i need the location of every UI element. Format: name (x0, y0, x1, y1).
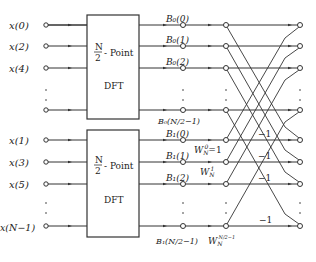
ellipsis-dot (45, 212, 47, 214)
output-label: B₀(2) (165, 57, 189, 67)
outputs-bottom: B₁(0) B₁(1) B₁(2) B₁(N/2−1) (155, 129, 198, 246)
minus-one-label: −1 (258, 151, 271, 161)
block-sublabel: DFT (104, 195, 123, 205)
frac-denominator: 2 (95, 166, 101, 176)
input-label: x(0) (9, 20, 29, 31)
output-label: B₁(2) (165, 173, 189, 183)
output-label: B₀(N/2−1) (157, 117, 200, 126)
minus-one-label: −1 (258, 173, 271, 183)
outputs-top: B₀(0) B₀(1) B₀(2) B₀(N/2−1) (157, 14, 200, 126)
input-lines-bottom (44, 138, 87, 228)
block-label: - Point (104, 161, 134, 171)
inputs-even: x(0) x(2) x(4) (9, 20, 47, 101)
input-lines-top (44, 23, 87, 112)
input-label: x(4) (9, 63, 29, 74)
diagram-canvas: x(0) x(2) x(4) N 2 - Point DFT x(1) x(3)… (0, 0, 316, 262)
fft-butterfly-diagram: x(0) x(2) x(4) N 2 - Point DFT x(1) x(3)… (0, 0, 316, 262)
output-label: B₁(0) (165, 129, 189, 139)
minus-one-label: −1 (259, 215, 272, 225)
frac-numerator: N (95, 155, 103, 165)
dft-block-top: N 2 - Point DFT (87, 15, 139, 119)
frac-numerator: N (95, 42, 103, 52)
output-label: B₁(1) (165, 151, 189, 161)
ellipsis-dot (45, 89, 47, 91)
inputs-odd: x(1) x(3) x(5) x(N−1) (0, 135, 47, 233)
output-label: B₁(N/2−1) (155, 237, 198, 246)
input-label: x(3) (9, 157, 29, 168)
butterfly-cross (227, 27, 299, 224)
block-sublabel: DFT (104, 81, 123, 91)
ellipsis-dot (45, 99, 47, 101)
minus-one-labels: −1 −1 −1 −1 (258, 129, 272, 225)
butterfly-straight (228, 25, 298, 226)
block-label: - Point (104, 48, 134, 58)
output-label: B₀(1) (165, 35, 189, 45)
twiddle-w1: WN1 (200, 165, 215, 178)
twiddle-factors: WN0=1 WN1 WNN/2−1 (194, 143, 235, 247)
input-label: x(N−1) (0, 222, 35, 233)
output-label: B₀(0) (165, 14, 189, 24)
input-label: x(2) (9, 41, 29, 52)
input-label: x(1) (9, 135, 29, 146)
input-label: x(5) (9, 179, 29, 190)
minus-one-label: −1 (258, 129, 271, 139)
ellipsis-dot (45, 202, 47, 204)
frac-denominator: 2 (95, 53, 101, 63)
dft-block-bottom: N 2 - Point DFT (87, 130, 139, 237)
twiddle-w0: WN0=1 (194, 143, 222, 156)
twiddle-wlast: WNN/2−1 (208, 234, 235, 247)
